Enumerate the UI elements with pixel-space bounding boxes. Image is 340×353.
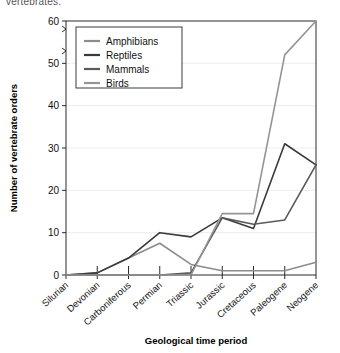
- figure: vertebrates. 0102030405060 SilurianDevon…: [0, 0, 340, 353]
- series-line-reptiles: [66, 144, 316, 275]
- legend-label-mammals: Mammals: [106, 64, 149, 75]
- caption-fragment: vertebrates.: [6, 0, 61, 7]
- y-tick-label: 60: [48, 16, 60, 27]
- legend-label-birds: Birds: [106, 78, 129, 89]
- line-chart: 0102030405060 SilurianDevonianCarbonifer…: [0, 0, 340, 353]
- y-axis-ticks: 0102030405060: [48, 16, 66, 281]
- legend: AmphibiansReptilesMammalsBirds: [76, 27, 182, 89]
- y-tick-label: 40: [48, 100, 60, 111]
- y-tick-label: 50: [48, 58, 60, 69]
- x-tick-label: Neogene: [284, 279, 320, 313]
- y-tick-label: 20: [48, 185, 60, 196]
- axis-break-marks: [62, 26, 66, 54]
- y-axis-title: Number of vertebrate orders: [8, 84, 19, 212]
- x-tick-label: Permian: [130, 279, 164, 311]
- series-line-mammals: [66, 165, 316, 275]
- y-tick-label: 0: [53, 270, 59, 281]
- legend-label-amphibians: Amphibians: [106, 36, 158, 47]
- x-tick-label: Triassic: [164, 279, 196, 309]
- legend-label-reptiles: Reptiles: [106, 50, 142, 61]
- x-axis-labels: SilurianDevonianCarboniferousPermianTria…: [39, 279, 320, 327]
- y-tick-label: 10: [48, 227, 60, 238]
- x-axis-title: Geological time period: [145, 335, 248, 346]
- y-tick-label: 30: [48, 143, 60, 154]
